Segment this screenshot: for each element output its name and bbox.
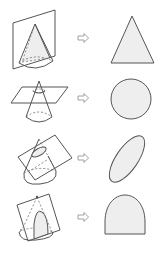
result-parabola (105, 195, 145, 234)
arrow-right-icon (78, 154, 89, 163)
section-ellipse (30, 145, 47, 159)
arrow-right-icon (78, 34, 89, 43)
arrow-right-icon (78, 213, 89, 222)
row-vertical-section (13, 10, 154, 69)
result-circle (111, 79, 151, 119)
row-horizontal-section (11, 79, 151, 122)
row-oblique-section (18, 130, 151, 187)
section-guide (28, 160, 47, 172)
cone-base-front (24, 171, 56, 184)
oblique-plane (18, 135, 72, 180)
row-parabolic-section (17, 194, 145, 241)
cone-base-back (26, 112, 52, 117)
cone-with-vertical-plane (13, 10, 55, 69)
result-triangle (111, 16, 154, 63)
cone-base-front (26, 117, 52, 122)
cone-with-horizontal-plane (11, 81, 68, 122)
cone-with-tilted-plane (17, 194, 60, 241)
cone-slant-right (48, 156, 56, 171)
arrow-right-icon (78, 94, 89, 103)
cone-sections-diagram (0, 0, 163, 254)
cone-with-oblique-plane (18, 135, 72, 184)
section-triangle-fill (22, 24, 50, 62)
section-parabola (34, 211, 48, 239)
result-ellipse (103, 130, 151, 187)
cone-apex (36, 196, 38, 198)
